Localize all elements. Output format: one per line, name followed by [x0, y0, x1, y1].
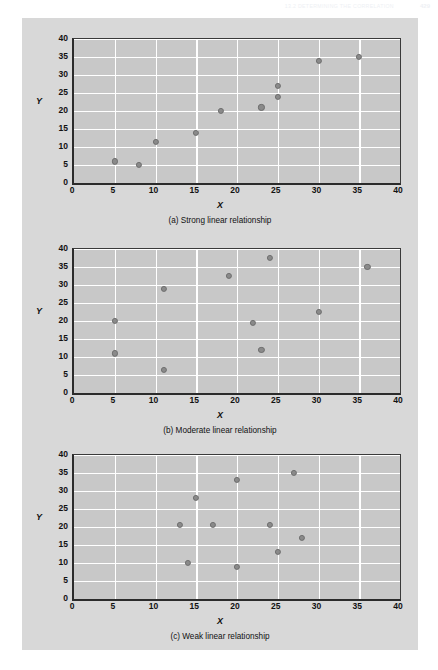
y-tick-label: 20 — [59, 106, 68, 115]
y-tick-label: 30 — [59, 280, 68, 289]
y-tick-label: 20 — [59, 316, 68, 325]
x-tick-label: 20 — [230, 186, 239, 195]
x-tick-label: 35 — [353, 186, 362, 195]
y-axis-ticks: 4035302520151050 — [46, 38, 68, 182]
data-point — [112, 350, 118, 356]
y-tick-label: 10 — [59, 142, 68, 151]
y-tick-label: 25 — [59, 298, 68, 307]
x-tick-label: 10 — [149, 602, 158, 611]
x-tick-label: 0 — [70, 602, 75, 611]
scatter-chart-b: Y 4035302520151050 0510152025303540 X (b… — [22, 236, 418, 436]
running-head: 13.2 Determining the Correlation 429 — [0, 0, 438, 12]
x-tick-label: 30 — [312, 602, 321, 611]
data-point — [161, 286, 167, 292]
x-tick-label: 5 — [110, 396, 115, 405]
gridline-vertical — [359, 39, 360, 183]
x-axis-label: X — [22, 200, 418, 210]
scatter-chart-c: Y 4035302520151050 0510152025303540 X (c… — [22, 442, 418, 642]
data-point — [267, 255, 273, 261]
x-tick-label: 40 — [393, 396, 402, 405]
y-tick-label: 40 — [59, 244, 68, 253]
y-tick-label: 15 — [59, 334, 68, 343]
x-tick-label: 35 — [353, 396, 362, 405]
x-tick-label: 0 — [70, 186, 75, 195]
y-tick-label: 10 — [59, 558, 68, 567]
data-point — [275, 549, 281, 555]
x-tick-label: 40 — [393, 186, 402, 195]
y-tick-label: 5 — [63, 160, 68, 169]
data-point — [136, 162, 142, 168]
x-tick-label: 15 — [190, 186, 199, 195]
x-tick-label: 0 — [70, 396, 75, 405]
data-point — [315, 309, 321, 315]
gridline-vertical — [359, 455, 360, 599]
x-tick-label: 25 — [271, 396, 280, 405]
gridline-vertical — [156, 455, 157, 599]
x-tick-label: 35 — [353, 602, 362, 611]
gridline-vertical — [156, 39, 157, 183]
x-tick-label: 20 — [230, 396, 239, 405]
y-axis-ticks: 4035302520151050 — [46, 248, 68, 392]
gridline-vertical — [196, 39, 197, 183]
data-point — [112, 158, 118, 164]
data-point — [275, 83, 281, 89]
gridline-vertical — [237, 39, 238, 183]
gridline-vertical — [115, 455, 116, 599]
gridline-vertical — [278, 455, 279, 599]
data-point — [275, 94, 281, 100]
data-point — [112, 318, 118, 324]
y-tick-label: 0 — [63, 388, 68, 397]
x-tick-label: 5 — [110, 186, 115, 195]
data-point — [193, 130, 199, 136]
y-tick-label: 35 — [59, 262, 68, 271]
y-tick-label: 15 — [59, 540, 68, 549]
x-tick-label: 25 — [271, 186, 280, 195]
y-tick-label: 25 — [59, 88, 68, 97]
figure-panel: Y 4035302520151050 0510152025303540 X (a… — [22, 18, 418, 650]
gridline-vertical — [196, 455, 197, 599]
y-axis-ticks: 4035302520151050 — [46, 454, 68, 598]
page-number: 429 — [420, 3, 430, 9]
gridline-vertical — [359, 249, 360, 393]
data-point — [161, 367, 167, 373]
gridline-vertical — [196, 249, 197, 393]
gridline-vertical — [278, 249, 279, 393]
y-tick-label: 0 — [63, 178, 68, 187]
data-point — [258, 347, 264, 353]
x-tick-label: 20 — [230, 602, 239, 611]
y-tick-label: 5 — [63, 370, 68, 379]
y-axis-label: Y — [36, 512, 42, 522]
x-axis-label: X — [22, 410, 418, 420]
plot-area — [72, 248, 401, 395]
gridline-vertical — [319, 455, 320, 599]
y-tick-label: 10 — [59, 352, 68, 361]
y-tick-label: 15 — [59, 124, 68, 133]
plot-area — [72, 38, 401, 185]
x-tick-label: 15 — [190, 396, 199, 405]
plot-area — [72, 454, 401, 601]
gridline-vertical — [278, 39, 279, 183]
data-point — [258, 104, 264, 110]
y-tick-label: 25 — [59, 504, 68, 513]
data-point — [234, 564, 240, 570]
data-point — [185, 560, 191, 566]
x-axis-ticks: 0510152025303540 — [72, 396, 400, 410]
data-point — [315, 58, 321, 64]
x-tick-label: 30 — [312, 396, 321, 405]
x-tick-label: 10 — [149, 186, 158, 195]
x-axis-ticks: 0510152025303540 — [72, 186, 400, 200]
gridline-vertical — [319, 249, 320, 393]
data-point — [364, 264, 370, 270]
gridline-vertical — [156, 249, 157, 393]
y-tick-label: 30 — [59, 486, 68, 495]
data-point — [356, 54, 362, 60]
x-tick-label: 25 — [271, 602, 280, 611]
data-point — [193, 495, 199, 501]
y-tick-label: 0 — [63, 594, 68, 603]
x-tick-label: 15 — [190, 602, 199, 611]
y-tick-label: 20 — [59, 522, 68, 531]
x-axis-label: X — [22, 616, 418, 626]
y-tick-label: 35 — [59, 468, 68, 477]
x-tick-label: 30 — [312, 186, 321, 195]
y-tick-label: 40 — [59, 34, 68, 43]
